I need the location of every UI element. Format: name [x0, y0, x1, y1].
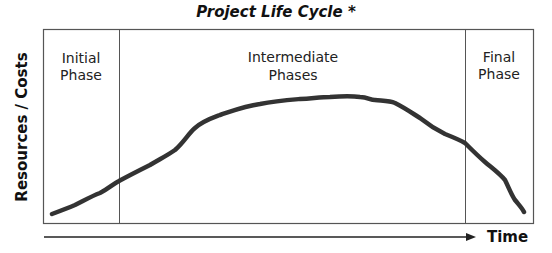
x-axis-label: Time	[487, 228, 528, 246]
chart-title: Project Life Cycle *	[196, 3, 356, 21]
phase-label-intermediate-line2: Phases	[268, 67, 317, 83]
y-axis-label: Resources / Costs	[13, 52, 31, 201]
phase-label-intermediate-line1: Intermediate	[248, 49, 338, 65]
phase-label-initial-line2: Phase	[60, 67, 102, 83]
phase-label-final-line1: Final	[483, 49, 515, 65]
phase-label-initial-line1: Initial	[62, 50, 101, 66]
project-life-cycle-chart: Project Life Cycle * Initial Phase Inter…	[0, 0, 552, 253]
resource-curve	[52, 96, 524, 214]
phase-label-final-line2: Phase	[478, 66, 520, 82]
arrow-head-icon	[466, 233, 476, 241]
